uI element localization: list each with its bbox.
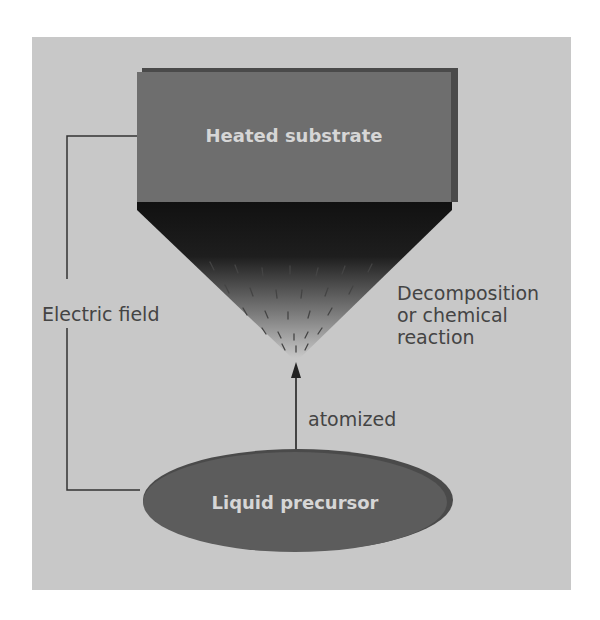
- substrate-label: Heated substrate: [137, 125, 451, 146]
- electric-field-wire: [67, 136, 137, 279]
- reaction-label: Decomposition or chemical reaction: [397, 282, 539, 348]
- electric-field-label: Electric field: [42, 303, 159, 325]
- reaction-label-line-2: or chemical: [397, 304, 539, 326]
- reaction-label-line-3: reaction: [397, 326, 539, 348]
- reaction-label-line-1: Decomposition: [397, 282, 539, 304]
- arrow-head-icon: [291, 362, 301, 378]
- atomized-label: atomized: [308, 408, 396, 430]
- electric-field-wire-lower: [67, 328, 140, 490]
- precursor-label: Liquid precursor: [143, 492, 447, 513]
